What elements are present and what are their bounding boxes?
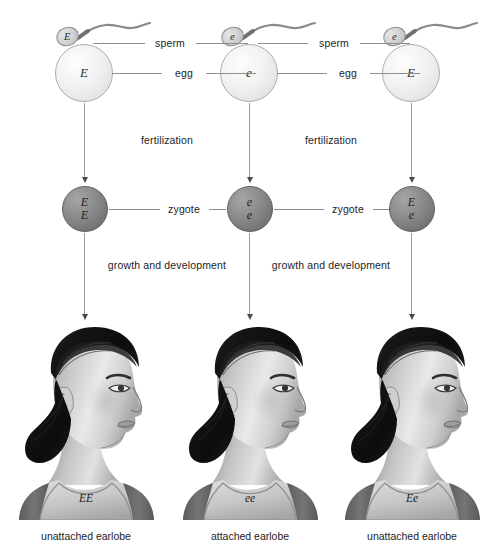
person-portrait-2 xyxy=(175,315,325,520)
phenotype-label-3: unattached earlobe xyxy=(367,530,457,542)
egg-connector-line-right-a xyxy=(277,73,327,74)
genotype-label-1: EE xyxy=(79,492,93,504)
sperm-connector-line-left-b xyxy=(196,43,248,44)
zygote-cell-1: E E xyxy=(62,186,108,232)
zygote-cell-2: e e xyxy=(227,186,273,232)
growth-arrow-line-2 xyxy=(249,233,250,317)
sperm-connector-line-left-a xyxy=(93,43,145,44)
person-portrait-1 xyxy=(11,315,161,520)
zygote-connector-line-left-b xyxy=(209,209,226,210)
egg-connector-line-right-b xyxy=(370,73,420,74)
egg-connector-line-left-b xyxy=(206,73,256,74)
egg-label-left: egg xyxy=(175,68,193,79)
phenotype-label-2: attached earlobe xyxy=(211,530,289,542)
zygote-allele-1-bottom: E xyxy=(81,209,88,222)
sperm-connector-line-right-a xyxy=(258,43,308,44)
person-figure-2 xyxy=(175,315,325,520)
person-figure-3 xyxy=(337,315,487,520)
fertilization-arrow-line-1 xyxy=(84,103,85,179)
zygote-label-right: zygote xyxy=(332,204,364,215)
fertilization-arrow-line-2 xyxy=(249,103,250,179)
zygote-connector-line-right-a xyxy=(274,209,324,210)
fertilization-arrow-line-3 xyxy=(411,103,412,179)
growth-arrow-line-3 xyxy=(411,233,412,317)
growth-label-left: growth and development xyxy=(108,260,226,271)
egg-label-right: egg xyxy=(339,68,357,79)
sperm-allele-3: e xyxy=(392,31,397,42)
person-figure-1 xyxy=(11,315,161,520)
fertilization-arrowhead-2 xyxy=(247,177,253,183)
zygote-allele-3-bottom: e xyxy=(409,209,414,222)
growth-arrow-line-1 xyxy=(84,233,85,317)
earlobe-inheritance-diagram: E E e e e E sperm sperm egg xyxy=(0,0,498,559)
fertilization-arrowhead-1 xyxy=(82,177,88,183)
zygote-allele-2-bottom: e xyxy=(247,209,252,222)
genotype-label-3: Ee xyxy=(406,492,418,504)
zygote-label-left: zygote xyxy=(168,204,200,215)
fertilization-arrowhead-3 xyxy=(409,177,415,183)
fertilization-label-left: fertilization xyxy=(141,135,193,146)
fertilization-label-right: fertilization xyxy=(305,135,357,146)
egg-allele-1: E xyxy=(80,65,88,81)
sperm-label-right: sperm xyxy=(319,38,349,49)
zygote-cell-3: E e xyxy=(389,186,435,232)
growth-label-right: growth and development xyxy=(272,260,390,271)
zygote-connector-line-right-b xyxy=(373,209,389,210)
sperm-connector-line-right-b xyxy=(360,43,410,44)
sperm-label-left: sperm xyxy=(155,38,185,49)
sperm-allele-1: E xyxy=(64,31,70,42)
genotype-label-2: ee xyxy=(245,492,255,504)
sperm-allele-2: e xyxy=(230,31,235,42)
person-portrait-3 xyxy=(337,315,487,520)
zygote-connector-line-left-a xyxy=(109,209,160,210)
egg-cell-1: E xyxy=(55,44,113,102)
phenotype-label-1: unattached earlobe xyxy=(41,530,131,542)
egg-connector-line-left-a xyxy=(112,73,162,74)
